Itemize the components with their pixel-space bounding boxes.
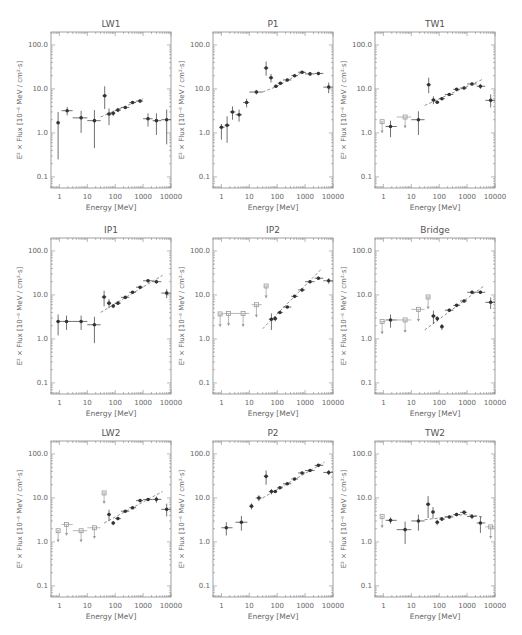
data-point bbox=[111, 521, 115, 525]
x-tick-label: 1 bbox=[57, 399, 61, 407]
upper-limit-point bbox=[485, 525, 495, 539]
data-point bbox=[102, 291, 107, 307]
panel-title: P2 bbox=[267, 428, 278, 438]
x-tick-label: 1000 bbox=[458, 399, 476, 407]
x-axis-label: Energy [MeV] bbox=[86, 203, 137, 212]
panel-tw1: TW11101001000100000.11.010.0100.0Energy … bbox=[340, 19, 506, 212]
data-point bbox=[87, 110, 100, 148]
panel-lw2: LW21101001000100000.11.010.0100.0Energy … bbox=[16, 428, 182, 621]
data-point bbox=[386, 314, 397, 327]
data-point bbox=[161, 110, 171, 145]
data-point bbox=[315, 464, 324, 468]
x-tick-label: 10 bbox=[407, 399, 416, 407]
y-axis-label: E² × Flux [10⁻⁶ MeV / cm²·s] bbox=[16, 60, 24, 159]
data-point bbox=[264, 471, 269, 485]
panel-p1: P11101001000100000.11.010.0100.0Energy [… bbox=[178, 19, 344, 212]
x-tick-label: 1 bbox=[57, 602, 61, 610]
y-tick-label: 100.0 bbox=[28, 247, 48, 255]
data-point bbox=[136, 99, 143, 103]
data-point bbox=[153, 496, 162, 502]
data-point bbox=[277, 311, 283, 315]
data-point bbox=[386, 517, 397, 523]
data-point bbox=[431, 311, 435, 324]
upper-limit-point bbox=[73, 529, 88, 542]
data-point bbox=[73, 316, 88, 330]
data-point bbox=[115, 517, 121, 521]
panel-ip1: IP11101001000100000.11.010.0100.0Energy … bbox=[16, 225, 182, 418]
panel-lw1: LW11101001000100000.11.010.0100.0Energy … bbox=[16, 19, 182, 212]
x-axis-label: Energy [MeV] bbox=[410, 612, 461, 621]
data-point bbox=[56, 112, 60, 159]
y-tick-label: 0.1 bbox=[37, 379, 48, 387]
y-axis-label: E² × Flux [10⁻⁶ MeV / cm²·s] bbox=[340, 266, 348, 365]
data-point bbox=[87, 317, 100, 343]
x-tick-label: 1 bbox=[381, 399, 385, 407]
x-tick-label: 100 bbox=[271, 602, 284, 610]
data-point bbox=[440, 324, 444, 330]
upper-limit-point bbox=[252, 303, 262, 318]
y-tick-label: 100.0 bbox=[190, 247, 210, 255]
data-point bbox=[467, 514, 477, 519]
data-point bbox=[435, 100, 439, 104]
data-point bbox=[477, 516, 486, 533]
data-point bbox=[107, 108, 112, 125]
panel-title: Bridge bbox=[420, 225, 450, 235]
plot-frame bbox=[213, 32, 333, 188]
x-tick-label: 100 bbox=[109, 193, 122, 201]
x-tick-label: 100 bbox=[271, 193, 284, 201]
plot-frame bbox=[213, 441, 333, 597]
x-tick-label: 1000 bbox=[134, 399, 152, 407]
x-axis-label: Energy [MeV] bbox=[410, 203, 461, 212]
y-tick-label: 0.1 bbox=[37, 173, 48, 181]
data-point bbox=[115, 301, 121, 305]
y-tick-label: 1.0 bbox=[37, 129, 48, 137]
data-point bbox=[397, 522, 412, 544]
x-tick-label: 10 bbox=[83, 399, 92, 407]
spectra-figure: LW11101001000100000.11.010.0100.0Energy … bbox=[0, 0, 522, 635]
panel-title: IP2 bbox=[266, 225, 280, 235]
y-tick-label: 10.0 bbox=[194, 291, 210, 299]
y-tick-label: 1.0 bbox=[199, 129, 210, 137]
model-fit-line bbox=[425, 515, 484, 520]
x-axis-label: Energy [MeV] bbox=[86, 612, 137, 621]
data-point bbox=[264, 62, 269, 76]
x-tick-label: 1000 bbox=[296, 399, 314, 407]
x-tick-label: 1000 bbox=[296, 602, 314, 610]
data-point bbox=[161, 504, 171, 517]
data-point bbox=[411, 515, 424, 531]
y-tick-label: 100.0 bbox=[352, 247, 372, 255]
panel-title: P1 bbox=[267, 19, 278, 29]
x-tick-label: 100 bbox=[433, 602, 446, 610]
upper-limit-point bbox=[62, 522, 73, 535]
upper-limit-point bbox=[218, 312, 223, 327]
y-tick-label: 10.0 bbox=[32, 494, 48, 502]
data-point bbox=[221, 522, 232, 535]
data-point bbox=[477, 290, 486, 294]
x-axis-label: Energy [MeV] bbox=[248, 612, 299, 621]
x-tick-label: 10 bbox=[83, 193, 92, 201]
data-point bbox=[467, 290, 477, 294]
y-axis-label: E² × Flux [10⁻⁶ MeV / cm²·s] bbox=[178, 60, 186, 159]
y-tick-label: 100.0 bbox=[28, 450, 48, 458]
x-tick-label: 1 bbox=[381, 193, 385, 201]
y-tick-label: 0.1 bbox=[361, 173, 372, 181]
data-point bbox=[230, 106, 236, 119]
x-tick-label: 10000 bbox=[322, 399, 344, 407]
data-point bbox=[278, 81, 283, 85]
upper-limit-point bbox=[235, 311, 250, 326]
panel-title: LW2 bbox=[102, 428, 121, 438]
y-axis-label: E² × Flux [10⁻⁶ MeV / cm²·s] bbox=[16, 266, 24, 365]
y-tick-label: 1.0 bbox=[199, 538, 210, 546]
data-point bbox=[485, 94, 495, 107]
y-tick-label: 10.0 bbox=[32, 291, 48, 299]
x-tick-label: 1 bbox=[57, 193, 61, 201]
x-tick-label: 10000 bbox=[322, 193, 344, 201]
data-point bbox=[121, 106, 129, 110]
y-axis-label: E² × Flux [10⁻⁶ MeV / cm²·s] bbox=[178, 266, 186, 365]
y-tick-label: 1.0 bbox=[37, 538, 48, 546]
y-tick-label: 100.0 bbox=[28, 41, 48, 49]
data-point bbox=[111, 111, 115, 116]
x-tick-label: 100 bbox=[109, 399, 122, 407]
x-tick-label: 10000 bbox=[484, 602, 506, 610]
data-point bbox=[323, 470, 333, 475]
